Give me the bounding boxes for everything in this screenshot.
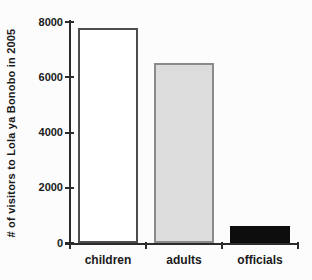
y-tick-8000	[65, 21, 74, 23]
y-tick-label-6000: 6000	[20, 71, 63, 84]
x-axis-line	[65, 243, 299, 245]
y-tick-label-0: 0	[20, 237, 63, 250]
x-tick-0	[69, 242, 71, 249]
x-tick-3	[297, 242, 299, 249]
y-tick-6000	[65, 76, 74, 78]
category-label-adults: adults	[166, 253, 201, 267]
y-axis-title: # of visitors to Lola ya Bonobo in 2005	[5, 18, 19, 248]
y-tick-2000	[65, 187, 74, 189]
y-tick-label-2000: 2000	[20, 181, 63, 194]
y-tick-label-8000: 8000	[20, 16, 63, 29]
y-tick-4000	[65, 132, 74, 134]
category-label-officials: officials	[237, 253, 282, 267]
plot-area	[70, 22, 298, 243]
children-bar	[78, 28, 138, 243]
x-tick-1	[145, 242, 147, 249]
bar-chart-figure: # of visitors to Lola ya Bonobo in 2005 …	[0, 0, 312, 280]
adults-bar	[154, 63, 214, 243]
x-tick-2	[221, 242, 223, 249]
officials-bar	[230, 226, 290, 243]
y-tick-label-4000: 4000	[20, 126, 63, 139]
category-label-children: children	[85, 253, 132, 267]
